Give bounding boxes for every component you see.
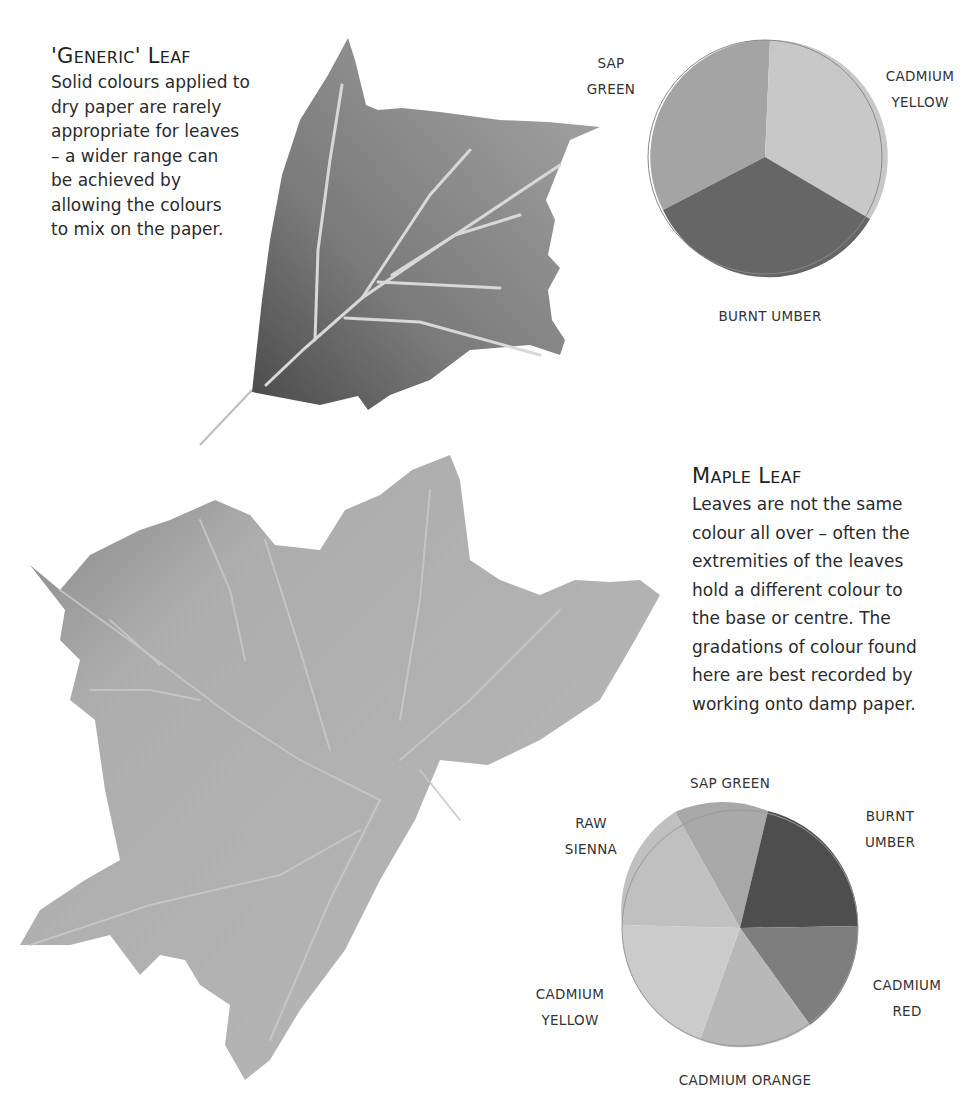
- label-raw-sienna: RAW SIENNA: [556, 810, 626, 862]
- label-burnt-umber: BURNT UMBER: [855, 803, 925, 855]
- label-cadmium-orange: CADMIUM ORANGE: [675, 1067, 815, 1093]
- label-sap-green: SAP GREEN: [680, 770, 780, 796]
- label-cadmium-red: CADMIUM RED: [862, 972, 952, 1024]
- maple-leaf-colour-wheel: [0, 0, 979, 1113]
- label-cadmium-yellow: CADMIUM YELLOW: [525, 981, 615, 1033]
